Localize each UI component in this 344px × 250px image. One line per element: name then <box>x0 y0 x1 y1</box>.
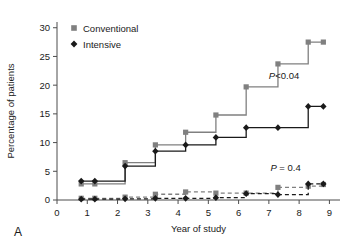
legend-square-marker-icon <box>71 25 77 31</box>
diamond-marker-icon <box>320 103 326 110</box>
diamond-marker-icon <box>243 124 249 131</box>
diamond-marker-icon <box>152 148 158 155</box>
y-axis-title: Percentage of patients <box>5 63 16 158</box>
legend-label: Conventional <box>83 23 138 34</box>
diamond-marker-icon <box>305 103 311 110</box>
square-marker-icon <box>183 189 188 194</box>
diamond-marker-icon <box>275 124 281 131</box>
x-tick-label: 3 <box>145 207 150 218</box>
figure-panel-a: 0510152025300123456789Year of studyPerce… <box>0 0 344 250</box>
p-value-primary: P<0.04 <box>269 70 299 81</box>
diamond-marker-icon <box>275 191 281 198</box>
x-tick-label: 7 <box>266 207 271 218</box>
p-value-text: <0.04 <box>275 70 299 81</box>
p-value-secondary: P = 0.4 <box>270 162 300 173</box>
x-tick-label: 6 <box>236 207 241 218</box>
x-tick-label: 1 <box>85 207 90 218</box>
diamond-marker-icon <box>182 141 188 148</box>
x-tick-label: 0 <box>54 207 59 218</box>
series-line <box>81 184 323 198</box>
legend: ConventionalIntensive <box>71 23 139 50</box>
legend-label: Intensive <box>83 39 121 50</box>
x-axis-title: Year of study <box>171 223 226 234</box>
y-tick-label: 25 <box>39 51 50 62</box>
step-chart: 0510152025300123456789Year of studyPerce… <box>0 0 344 250</box>
legend-diamond-marker-icon <box>71 40 78 47</box>
x-tick-label: 8 <box>296 207 301 218</box>
x-tick-label: 5 <box>206 207 211 218</box>
y-tick-label: 5 <box>45 166 50 177</box>
square-marker-icon <box>244 84 249 89</box>
x-tick-label: 2 <box>115 207 120 218</box>
x-tick-label: 9 <box>327 207 332 218</box>
square-marker-icon <box>306 39 311 44</box>
p-value-text: = 0.4 <box>277 162 301 173</box>
y-tick-label: 0 <box>45 194 50 205</box>
y-tick-label: 10 <box>39 137 50 148</box>
diamond-marker-icon <box>182 195 188 202</box>
x-tick-label: 4 <box>175 207 180 218</box>
square-marker-icon <box>213 112 218 117</box>
diamond-marker-icon <box>213 134 219 141</box>
y-tick-label: 15 <box>39 108 50 119</box>
square-marker-icon <box>321 39 326 44</box>
y-tick-label: 20 <box>39 80 50 91</box>
square-marker-icon <box>275 61 280 66</box>
y-tick-label: 30 <box>39 22 50 33</box>
panel-label: A <box>14 225 22 239</box>
square-marker-icon <box>275 185 280 190</box>
square-marker-icon <box>153 142 158 147</box>
square-marker-icon <box>183 130 188 135</box>
